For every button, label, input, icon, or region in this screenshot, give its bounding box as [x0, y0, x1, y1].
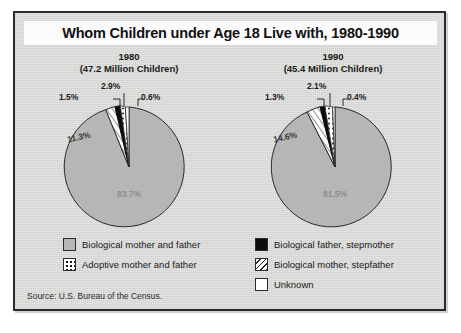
slice-label-1980-biological-parents: 83.7% — [117, 189, 141, 199]
panel-count-1980: (47.2 Million Children) — [29, 63, 229, 75]
white-swatch-icon — [255, 278, 268, 291]
gray-swatch-icon — [63, 238, 76, 251]
pie-svg-1990 — [231, 81, 439, 231]
legend-label-mother-stepfather: Biological mother, stepfather — [274, 259, 394, 270]
panel-year-1980: 1980 — [29, 51, 229, 63]
panel-count-1990: (45.4 Million Children) — [233, 63, 433, 75]
pie-chart-1990: 2.1% 1.3% 0.4% — [231, 81, 439, 231]
panel-year-1990: 1990 — [233, 51, 433, 63]
black-swatch-icon — [255, 238, 268, 251]
legend-label-unknown: Unknown — [274, 279, 314, 290]
legend-column-right: Biological father, stepmother Biological… — [255, 237, 423, 292]
legend-item-biological-parents: Biological mother and father — [63, 237, 237, 252]
panel-header-1990: 1990 (45.4 Million Children) — [233, 51, 433, 75]
pie-svg-1980 — [25, 81, 233, 231]
chart-figure: Whom Children under Age 18 Live with, 19… — [13, 11, 446, 311]
legend-item-unknown: Unknown — [255, 277, 423, 292]
legend-label-father-stepmother: Biological father, stepmother — [274, 239, 394, 250]
chart-legend: Biological mother and father Adoptive mo… — [63, 237, 423, 292]
legend-column-left: Biological mother and father Adoptive mo… — [63, 237, 237, 292]
legend-item-father-stepmother: Biological father, stepmother — [255, 237, 423, 252]
source-note: Source: U.S. Bureau of the Census. — [27, 291, 162, 301]
legend-item-adoptive: Adoptive mother and father — [63, 257, 237, 272]
page-title: Whom Children under Age 18 Live with, 19… — [62, 25, 399, 41]
legend-label-adoptive: Adoptive mother and father — [82, 259, 197, 270]
legend-label-biological-parents: Biological mother and father — [82, 239, 200, 250]
pie-chart-1980: 2.9% 1.5% 0.6% — [25, 81, 233, 231]
slice-label-1990-biological-parents: 81.5% — [323, 189, 347, 199]
dotted-swatch-icon — [63, 258, 76, 271]
panel-header-1980: 1980 (47.2 Million Children) — [29, 51, 229, 75]
legend-item-mother-stepfather: Biological mother, stepfather — [255, 257, 423, 272]
hatched-swatch-icon — [255, 258, 268, 271]
chart-title-bar: Whom Children under Age 18 Live with, 19… — [23, 20, 438, 46]
